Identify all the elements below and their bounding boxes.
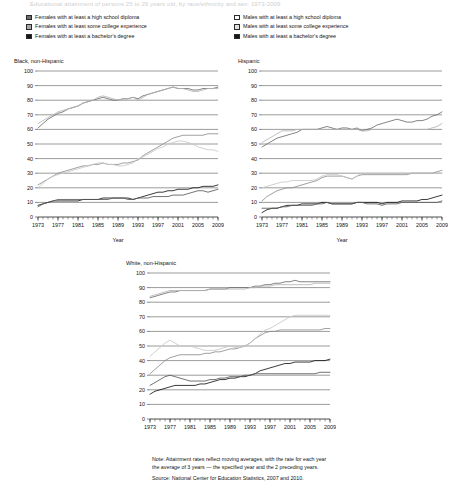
svg-text:70: 70 (251, 112, 257, 118)
svg-text:2005: 2005 (416, 222, 428, 228)
svg-text:20: 20 (27, 185, 33, 191)
svg-text:40: 40 (251, 156, 257, 162)
svg-text:90: 90 (251, 83, 257, 89)
svg-text:100: 100 (24, 68, 33, 74)
svg-text:2009: 2009 (324, 424, 336, 430)
svg-text:2005: 2005 (304, 424, 316, 430)
svg-text:1973: 1973 (32, 222, 44, 228)
legend-label: Females with at least a high school dipl… (35, 13, 139, 22)
svg-text:50: 50 (139, 343, 145, 349)
svg-text:20: 20 (251, 185, 257, 191)
svg-text:1985: 1985 (92, 222, 104, 228)
chart-panel-black-non-hispanic: Black, non-Hispanic 10090807060504030201… (12, 58, 224, 248)
legend-item: Females with at least a bachelor's degre… (26, 32, 147, 41)
legend-item: Males with at least a bachelor's degree (234, 32, 349, 41)
svg-text:30: 30 (139, 372, 145, 378)
svg-text:2001: 2001 (284, 424, 296, 430)
svg-text:1989: 1989 (112, 222, 124, 228)
svg-text:1997: 1997 (152, 222, 164, 228)
svg-text:1981: 1981 (296, 222, 308, 228)
svg-text:1981: 1981 (184, 424, 196, 430)
svg-text:1977: 1977 (164, 424, 176, 430)
chart-plot-area: 1009080706050403020100197319771981198519… (12, 65, 224, 245)
svg-text:1993: 1993 (356, 222, 368, 228)
svg-text:1973: 1973 (144, 424, 156, 430)
chart-panel-hispanic: Hispanic 1009080706050403020100197319771… (236, 58, 448, 248)
line-chart-svg: 1009080706050403020100197319771981198519… (236, 65, 448, 245)
svg-text:2001: 2001 (396, 222, 408, 228)
svg-text:1981: 1981 (72, 222, 84, 228)
svg-text:60: 60 (27, 126, 33, 132)
svg-text:1993: 1993 (132, 222, 144, 228)
svg-text:80: 80 (139, 299, 145, 305)
svg-text:10: 10 (251, 199, 257, 205)
svg-text:40: 40 (139, 358, 145, 364)
chart-title: White, non-Hispanic (126, 260, 176, 267)
source-line: Source: National Center for Education St… (152, 475, 442, 483)
svg-text:2005: 2005 (192, 222, 204, 228)
svg-text:90: 90 (139, 285, 145, 291)
svg-text:10: 10 (139, 401, 145, 407)
legend-swatch-icon (26, 15, 32, 21)
legend-label: Males with at least some college experie… (243, 22, 348, 31)
svg-text:60: 60 (139, 328, 145, 334)
legend-swatch-icon (26, 34, 32, 40)
svg-text:90: 90 (27, 83, 33, 89)
svg-text:1985: 1985 (316, 222, 328, 228)
chart-plot-area: 1009080706050403020100197319771981198519… (124, 267, 336, 447)
svg-text:1977: 1977 (276, 222, 288, 228)
svg-text:0: 0 (142, 416, 145, 422)
svg-text:50: 50 (251, 141, 257, 147)
chart-title: Hispanic (238, 58, 259, 65)
legend-label: Males with at least a high school diplom… (243, 13, 341, 22)
line-chart-svg: 1009080706050403020100197319771981198519… (124, 267, 336, 447)
legend-item: Males with at least some college experie… (234, 22, 349, 31)
svg-text:100: 100 (136, 270, 145, 276)
svg-text:50: 50 (27, 141, 33, 147)
svg-text:20: 20 (139, 387, 145, 393)
svg-text:70: 70 (139, 314, 145, 320)
note-line-1: Note: Attainment rates reflect moving av… (152, 456, 442, 464)
svg-text:10: 10 (27, 199, 33, 205)
legend-swatch-icon (26, 24, 32, 30)
svg-text:2009: 2009 (436, 222, 448, 228)
legend-swatch-icon (234, 34, 240, 40)
svg-text:80: 80 (251, 97, 257, 103)
svg-text:1993: 1993 (244, 424, 256, 430)
legend-label: Males with at least a bachelor's degree (243, 32, 336, 41)
svg-text:60: 60 (251, 126, 257, 132)
legend-label: Females with at least a bachelor's degre… (35, 32, 134, 41)
svg-text:80: 80 (27, 97, 33, 103)
x-axis-label: Year (236, 237, 448, 243)
svg-text:2009: 2009 (212, 222, 224, 228)
clipped-figure-title: Educational attainment of persons 25 to … (30, 0, 420, 9)
svg-text:2001: 2001 (172, 222, 184, 228)
svg-text:1973: 1973 (256, 222, 268, 228)
chart-title: Black, non-Hispanic (14, 58, 63, 65)
chart-panel-white-non-hispanic: White, non-Hispanic 10090807060504030201… (124, 260, 336, 450)
legend-item: Females with at least a high school dipl… (26, 13, 147, 22)
svg-text:100: 100 (248, 68, 257, 74)
legend-females: Females with at least a high school dipl… (26, 13, 147, 41)
figure-page: Educational attainment of persons 25 to … (0, 0, 453, 491)
svg-text:30: 30 (27, 170, 33, 176)
svg-text:1977: 1977 (52, 222, 64, 228)
figure-notes: Note: Attainment rates reflect moving av… (152, 456, 442, 483)
svg-text:30: 30 (251, 170, 257, 176)
line-chart-svg: 1009080706050403020100197319771981198519… (12, 65, 224, 245)
svg-text:1985: 1985 (204, 424, 216, 430)
legend-swatch-icon (234, 24, 240, 30)
svg-text:1997: 1997 (376, 222, 388, 228)
note-line-2: the average of 3 years — the specified y… (152, 464, 442, 472)
legend-item: Females with at least some college exper… (26, 22, 147, 31)
svg-text:1989: 1989 (224, 424, 236, 430)
svg-text:0: 0 (30, 214, 33, 220)
svg-text:1989: 1989 (336, 222, 348, 228)
svg-text:40: 40 (27, 156, 33, 162)
svg-text:70: 70 (27, 112, 33, 118)
legend-males: Males with at least a high school diplom… (234, 13, 349, 41)
legend-label: Females with at least some college exper… (35, 22, 147, 31)
legend-swatch-icon (234, 15, 240, 21)
x-axis-label: Year (12, 237, 224, 243)
svg-text:0: 0 (254, 214, 257, 220)
